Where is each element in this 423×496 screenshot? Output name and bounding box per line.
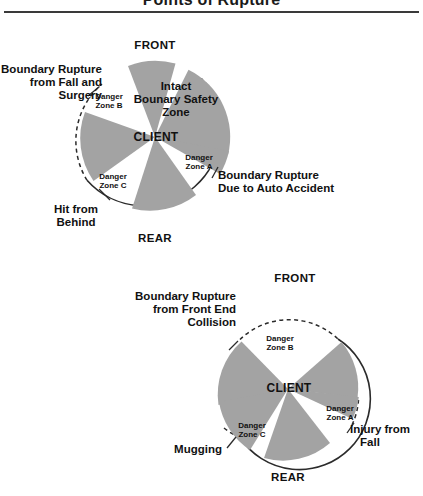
upper-callout-hit-behind-line2: Behind <box>42 216 110 230</box>
lower-zone-b-line2: Zone B <box>255 343 305 352</box>
lower-zone-b-line1: Danger <box>255 334 305 343</box>
upper-zone-b-line2: Zone B <box>88 101 130 110</box>
lower-front-label: FRONT <box>255 272 335 285</box>
page-root: Points of Rupture <box>0 0 423 496</box>
upper-zone-b-line1: Danger <box>88 92 130 101</box>
upper-callout-fall-surgery-line1: Boundary Rupture <box>0 63 102 77</box>
upper-intact-zone-line1: Intact <box>120 80 232 94</box>
upper-front-label: FRONT <box>115 39 195 52</box>
upper-sector-left <box>80 112 155 181</box>
upper-callout-auto-accident-line1: Boundary Rupture <box>218 169 418 183</box>
upper-client-label: CLIENT <box>125 131 187 144</box>
upper-leader-bottom <box>99 189 110 200</box>
lower-callout-collision-line1: Boundary Rupture <box>128 290 236 304</box>
upper-intact-zone-line2: Bounary Safety <box>120 93 232 107</box>
lower-zone-c-line1: Danger <box>228 421 276 430</box>
upper-callout-fall-surgery-line3: Surgery <box>0 89 102 103</box>
lower-zone-a-line1: Danger <box>318 404 362 413</box>
upper-rear-label: REAR <box>115 232 195 245</box>
lower-callout-mugging: Mugging <box>150 443 222 457</box>
upper-callout-fall-surgery-line2: from Fall and <box>0 76 102 90</box>
lower-callout-collision-line2: from Front End <box>128 303 236 317</box>
lower-callout-injury-fall-line1: Injury from <box>350 423 423 437</box>
upper-zone-c-line2: Zone C <box>92 181 134 190</box>
upper-callout-hit-behind-line1: Hit from <box>42 203 110 217</box>
upper-zone-a-line2: Zone A <box>178 162 220 171</box>
upper-intact-zone-line3: Zone <box>120 106 232 120</box>
lower-client-label: CLIENT <box>258 382 320 395</box>
lower-callout-collision-line3: Collision <box>128 316 236 330</box>
lower-zone-a-line2: Zone A <box>318 413 362 422</box>
lower-zone-c-line2: Zone C <box>228 430 276 439</box>
upper-zone-a-line1: Danger <box>178 153 220 162</box>
lower-rear-label: REAR <box>248 471 328 484</box>
upper-callout-auto-accident-line2: Due to Auto Accident <box>218 182 418 196</box>
lower-callout-injury-fall-line2: Fall <box>350 436 390 450</box>
upper-zone-c-line1: Danger <box>92 172 134 181</box>
